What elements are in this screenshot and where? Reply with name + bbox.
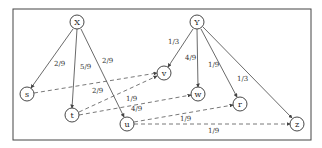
node-u: u: [120, 117, 134, 131]
edge-label-t-w: 4/9: [131, 105, 142, 113]
node-z: z: [290, 117, 304, 131]
edge-label-Y-v: 1/3: [168, 38, 179, 46]
edge-label-u-r: 1/9: [180, 115, 191, 123]
node-label-z: z: [295, 120, 299, 129]
node-s: s: [20, 87, 34, 101]
node-label-X: X: [74, 18, 80, 27]
edge-label-X-s: 2/9: [54, 60, 65, 68]
node-t: t: [65, 108, 79, 122]
edge-t-v: [79, 76, 157, 112]
edge-label-Y-w: 4/9: [185, 54, 196, 62]
edge-X-t: [72, 29, 77, 108]
node-label-s: s: [25, 90, 29, 99]
node-label-r: r: [238, 100, 242, 109]
node-X: X: [70, 15, 84, 29]
edge-X-s: [31, 29, 73, 88]
edge-label-Y-r: 1/9: [208, 61, 219, 69]
edge-label-t-v: 1/9: [126, 95, 137, 103]
node-Y: Y: [190, 15, 204, 29]
edge-Y-w: [197, 29, 198, 87]
node-v: v: [157, 66, 171, 80]
edge-label-Y-z: 1/3: [237, 75, 248, 83]
diagram-canvas: 2/9 5/9 2/9 1/3 4/9 1/9 1/3 2/9 1/9 4/9 …: [0, 0, 322, 148]
edge-X-u: [81, 29, 124, 117]
node-label-w: w: [195, 90, 202, 99]
edge-label-X-u: 2/9: [102, 57, 113, 65]
edge-label-s-v: 2/9: [92, 87, 103, 95]
node-w: w: [191, 87, 205, 101]
node-label-Y: Y: [193, 18, 200, 27]
edge-Y-z: [203, 27, 292, 118]
node-r: r: [233, 97, 247, 111]
edge-label-u-z: 1/9: [208, 127, 219, 135]
edge-label-X-t: 5/9: [80, 63, 91, 71]
node-label-v: v: [161, 69, 167, 78]
node-label-u: u: [124, 120, 129, 129]
